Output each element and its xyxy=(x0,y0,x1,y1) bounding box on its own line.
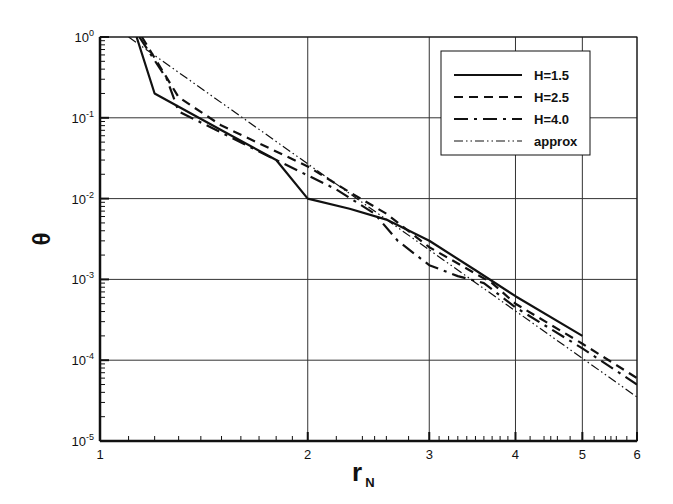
y-tick-labels: 10010-110-210-310-410-5 xyxy=(72,28,94,449)
y-tick-label: 10-4 xyxy=(72,351,94,368)
x-tick-label: 1 xyxy=(96,447,103,462)
x-axis-title-subscript: N xyxy=(365,475,374,490)
y-axis-title-text: θ xyxy=(28,233,55,246)
y-tick-label: 10-2 xyxy=(72,190,94,207)
y-tick-label: 10-1 xyxy=(72,109,94,126)
y-axis-title: θ xyxy=(28,233,55,246)
x-tick-label: 5 xyxy=(579,447,586,462)
x-tick-label: 6 xyxy=(633,447,640,462)
x-tick-label: 2 xyxy=(304,447,311,462)
legend-label: H=2.5 xyxy=(534,90,569,105)
y-tick-label: 10-5 xyxy=(72,432,94,449)
y-tick-label: 10-3 xyxy=(72,270,94,287)
legend-label: H=4.0 xyxy=(534,112,569,127)
y-tick-label: 100 xyxy=(75,28,94,45)
x-axis-title: rN xyxy=(352,457,375,490)
legend: H=1.5H=2.5H=4.0approx xyxy=(441,51,590,155)
legend-label: H=1.5 xyxy=(534,68,569,83)
x-axis-title-main: r xyxy=(352,457,362,487)
legend-label: approx xyxy=(534,134,578,149)
x-tick-labels: 123456 xyxy=(96,447,640,462)
x-tick-label: 4 xyxy=(512,447,519,462)
x-tick-label: 3 xyxy=(426,447,433,462)
chart: 123456 10010-110-210-310-410-5 rN θ H=1.… xyxy=(0,0,673,504)
